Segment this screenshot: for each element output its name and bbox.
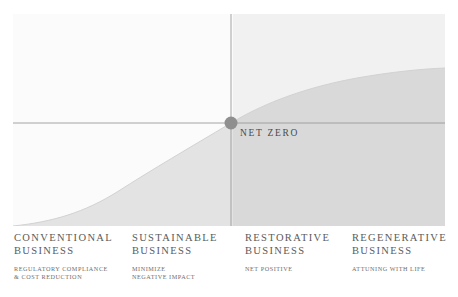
legend-subtitle-regenerative-business: ATTUNING WITH LIFE [352, 265, 457, 273]
legend-column-conventional-business: CONVENTIONAL BUSINESS REGULATORY COMPLIA… [14, 232, 132, 281]
legend-subtitle-restorative-business: NET POSITIVE [245, 265, 350, 273]
business-impact-curve-chart [13, 14, 445, 226]
legend-title-sustainable-business: SUSTAINABLE BUSINESS [132, 232, 242, 257]
legend-title-conventional-business: CONVENTIONAL BUSINESS [14, 232, 132, 257]
legend-title-regenerative-business: REGENERATIVE BUSINESS [352, 232, 457, 257]
regenerative-business-spectrum-figure: NET ZERO CONVENTIONAL BUSINESS REGULATOR… [0, 0, 458, 297]
legend-column-sustainable-business: SUSTAINABLE BUSINESS MINIMIZE NEGATIVE I… [132, 232, 242, 281]
legend-column-regenerative-business: REGENERATIVE BUSINESS ATTUNING WITH LIFE [352, 232, 457, 273]
legend-columns: CONVENTIONAL BUSINESS REGULATORY COMPLIA… [0, 232, 458, 297]
chart-plot-area [13, 14, 445, 226]
net-zero-marker-dot [225, 117, 238, 130]
legend-subtitle-sustainable-business: MINIMIZE NEGATIVE IMPACT [132, 265, 242, 281]
legend-subtitle-conventional-business: REGULATORY COMPLIANCE & COST REDUCTION [14, 265, 132, 281]
legend-title-restorative-business: RESTORATIVE BUSINESS [245, 232, 350, 257]
legend-column-restorative-business: RESTORATIVE BUSINESS NET POSITIVE [245, 232, 350, 273]
net-zero-label: NET ZERO [240, 128, 299, 138]
